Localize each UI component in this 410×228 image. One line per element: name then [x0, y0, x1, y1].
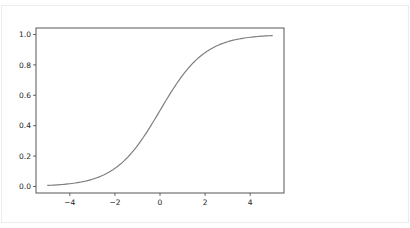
y-tick-label: 0.4 — [19, 121, 31, 130]
y-tick-label: 0.8 — [19, 61, 31, 70]
y-tick-label: 0.2 — [19, 152, 31, 161]
x-tick-label: 4 — [248, 198, 253, 207]
y-tick-label: 0.0 — [19, 182, 31, 191]
x-tick-label: 0 — [158, 198, 163, 207]
axis-ticks: −4−20240.00.20.40.60.81.0 — [19, 30, 253, 207]
y-tick-label: 0.6 — [19, 91, 31, 100]
y-tick-label: 1.0 — [19, 30, 31, 39]
x-tick-label: −4 — [64, 198, 75, 207]
sigmoid-line — [47, 36, 272, 186]
x-tick-label: −2 — [109, 198, 120, 207]
x-tick-label: 2 — [203, 198, 208, 207]
sigmoid-chart: −4−20240.00.20.40.60.81.0 — [0, 0, 410, 228]
